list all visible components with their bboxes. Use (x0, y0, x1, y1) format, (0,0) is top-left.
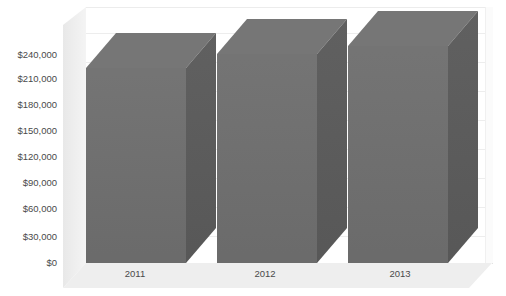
chart-right-edge (485, 7, 493, 263)
y-axis-tick-label: $0 (0, 258, 57, 268)
bar-2013[interactable] (348, 11, 478, 267)
chart-plot-area (0, 0, 506, 296)
y-axis-tick-label: $90,000 (0, 178, 57, 188)
bar-front-face (348, 46, 448, 263)
bar-2012[interactable] (217, 19, 347, 267)
y-axis-tick-label: $60,000 (0, 204, 57, 214)
bar-front-face (86, 68, 186, 263)
y-axis-tick-label: $240,000 (0, 50, 57, 60)
bar-2011[interactable] (86, 33, 216, 267)
bar-side-face (448, 11, 478, 263)
chart-left-wall (63, 7, 86, 288)
bar-side-face (317, 19, 347, 263)
y-axis-tick-label: $180,000 (0, 100, 57, 110)
y-axis-tick-label: $150,000 (0, 126, 57, 136)
x-axis-tick-label: 2011 (80, 268, 190, 280)
bar-chart-3d: $240,000$210,000$180,000$150,000$120,000… (0, 0, 506, 296)
y-axis-tick-label: $120,000 (0, 152, 57, 162)
y-axis-tick-label: $210,000 (0, 74, 57, 84)
x-axis-tick-label: 2013 (345, 268, 455, 280)
y-axis-tick-label: $30,000 (0, 232, 57, 242)
bar-front-face (217, 54, 317, 263)
x-axis-tick-label: 2012 (210, 268, 320, 280)
bar-side-face (186, 33, 216, 263)
